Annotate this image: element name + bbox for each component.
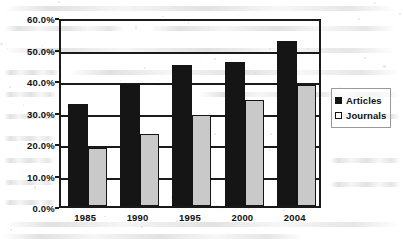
bar-journals-1985: [88, 148, 107, 206]
legend-item-articles: Articles: [335, 93, 386, 108]
legend-swatch-icon: [335, 112, 342, 119]
bar-group: [113, 21, 165, 206]
x-axis: 19851990199520002004: [59, 212, 321, 230]
bar-group: [271, 21, 323, 206]
y-tick-label: 30.0%: [4, 108, 55, 119]
bar-articles-2000: [225, 62, 245, 206]
bar-articles-1995: [172, 65, 192, 206]
x-tick-label: 1990: [127, 212, 149, 223]
bar-journals-2004: [297, 85, 316, 206]
bar-articles-1990: [120, 84, 140, 206]
bar-journals-1990: [140, 134, 159, 206]
bar-chart: 60.0%50.0%40.0%30.0%20.0%10.0%0.0% 19851…: [0, 0, 403, 242]
chart-legend: ArticlesJournals: [331, 88, 391, 128]
bar-articles-2004: [277, 41, 297, 206]
x-tick-label: 2000: [231, 212, 253, 223]
y-axis: 60.0%50.0%40.0%30.0%20.0%10.0%0.0%: [0, 0, 55, 242]
bar-group: [61, 21, 113, 206]
y-tick-label: 20.0%: [4, 140, 55, 151]
legend-item-journals: Journals: [335, 108, 386, 123]
plot-area: [59, 19, 321, 208]
bar-group: [166, 21, 218, 206]
y-tick-label: 40.0%: [4, 77, 55, 88]
x-tick-label: 1985: [74, 212, 96, 223]
bar-group: [218, 21, 270, 206]
bar-journals-2000: [245, 100, 264, 206]
y-tick-label: 50.0%: [4, 45, 55, 56]
x-tick-label: 1995: [179, 212, 201, 223]
bar-articles-1985: [68, 104, 88, 206]
bar-journals-1995: [192, 115, 211, 206]
y-tick-label: 60.0%: [4, 14, 55, 25]
y-tick-label: 0.0%: [4, 203, 55, 214]
legend-label: Journals: [346, 110, 386, 121]
legend-label: Articles: [346, 95, 382, 106]
y-tick-label: 10.0%: [4, 171, 55, 182]
x-tick-label: 2004: [284, 212, 306, 223]
legend-swatch-icon: [335, 97, 342, 104]
